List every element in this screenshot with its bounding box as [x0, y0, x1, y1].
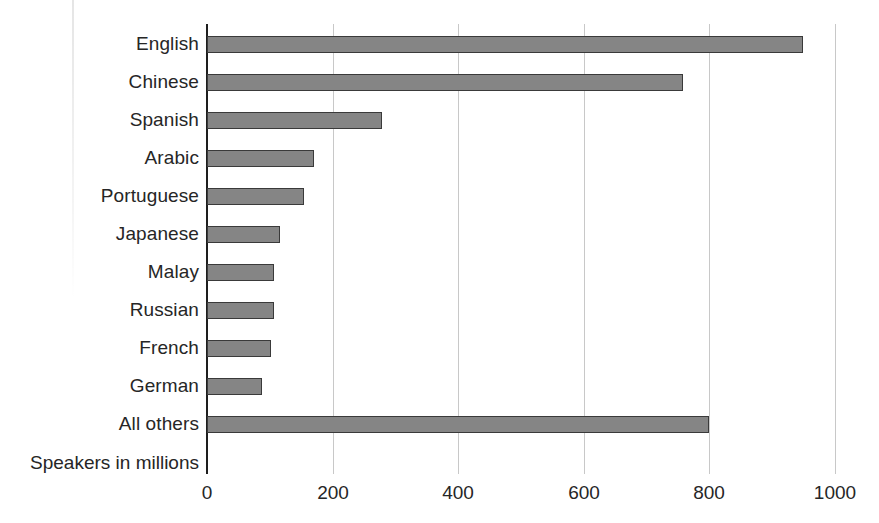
bar-row: Spanish [0, 101, 879, 139]
bar-row: Chinese [0, 63, 879, 101]
bar [207, 416, 709, 433]
category-label: Russian [130, 291, 199, 329]
x-tick-label: 1000 [814, 482, 856, 504]
category-label: French [139, 329, 199, 367]
bar-chart-figure: EnglishChineseSpanishArabicPortugueseJap… [0, 0, 879, 523]
bar-row: French [0, 329, 879, 367]
x-tick-label: 400 [442, 482, 474, 504]
plot-area: EnglishChineseSpanishArabicPortugueseJap… [0, 0, 879, 523]
category-label: English [136, 25, 199, 63]
bar-row: Malay [0, 253, 879, 291]
bar [207, 340, 271, 357]
bar-row: All others [0, 405, 879, 443]
x-tick-label: 0 [202, 482, 213, 504]
bar [207, 150, 314, 167]
bar-row: English [0, 25, 879, 63]
bar [207, 36, 803, 53]
bar [207, 302, 274, 319]
bar-row: German [0, 367, 879, 405]
category-label: Spanish [130, 101, 199, 139]
x-tick-label: 800 [693, 482, 725, 504]
bar [207, 264, 274, 281]
category-label: German [130, 367, 199, 405]
category-label: Japanese [116, 215, 199, 253]
category-label: Arabic [145, 139, 199, 177]
bar [207, 378, 262, 395]
bar [207, 226, 280, 243]
category-label: Portuguese [101, 177, 199, 215]
x-axis-title: Speakers in millions [30, 452, 199, 474]
bar [207, 74, 683, 91]
bar-row: Japanese [0, 215, 879, 253]
category-label: Malay [148, 253, 199, 291]
bar [207, 112, 382, 129]
x-tick-label: 200 [317, 482, 349, 504]
bar-row: Portuguese [0, 177, 879, 215]
x-tick-label: 600 [568, 482, 600, 504]
category-label: All others [119, 405, 199, 443]
category-label: Chinese [129, 63, 199, 101]
bar [207, 188, 304, 205]
bar-row: Russian [0, 291, 879, 329]
bar-row: Arabic [0, 139, 879, 177]
